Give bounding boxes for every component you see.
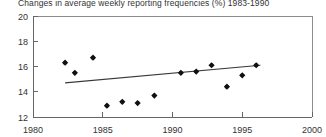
data-point-core (73, 71, 77, 75)
data-point-core (136, 101, 140, 105)
y-tick-label: 16 (18, 62, 28, 72)
data-point-series (62, 55, 259, 109)
x-tick-label: 1985 (93, 125, 113, 135)
data-point-core (105, 104, 109, 108)
x-tick-label: 1990 (162, 125, 182, 135)
data-point-core (210, 63, 214, 67)
data-point-core (254, 63, 258, 67)
x-axis-tick-labels: 1980 1985 1990 1995 2000 (23, 125, 322, 135)
y-tick-label: 20 (18, 12, 28, 22)
data-point-core (152, 94, 156, 98)
y-axis-tick-labels: 20 18 16 14 12 (18, 12, 28, 123)
data-point-core (240, 73, 244, 77)
data-point-core (63, 61, 67, 65)
chart-container: Changes in average weekly reporting freq… (0, 0, 326, 137)
x-tick-label: 1995 (232, 125, 252, 135)
x-axis-ticks (33, 112, 312, 117)
plot-frame (33, 16, 312, 117)
trend-line (65, 65, 260, 83)
data-point-core (225, 85, 229, 89)
data-point-core (91, 56, 95, 60)
data-point-core (194, 70, 198, 74)
data-point-core (179, 71, 183, 75)
data-point-core (120, 100, 124, 104)
y-tick-label: 12 (18, 113, 28, 123)
y-axis-ticks (33, 16, 38, 117)
y-tick-label: 14 (18, 87, 28, 97)
x-tick-label: 1980 (23, 125, 43, 135)
trend-line-series (65, 65, 260, 83)
x-tick-label: 2000 (302, 125, 322, 135)
y-tick-label: 18 (18, 37, 28, 47)
chart-plot: 20 18 16 14 12 1980 1985 1990 1995 2000 (0, 0, 326, 137)
